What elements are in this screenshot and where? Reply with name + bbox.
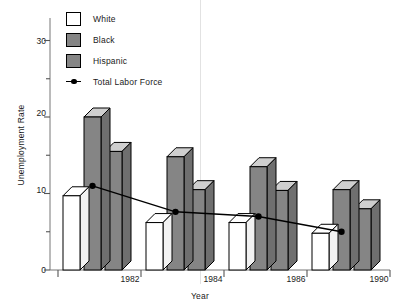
plot-area [0, 0, 397, 308]
unemployment-rate-chart: Unemployment Rate Year 30 20 10 0 1982 1… [0, 0, 397, 308]
